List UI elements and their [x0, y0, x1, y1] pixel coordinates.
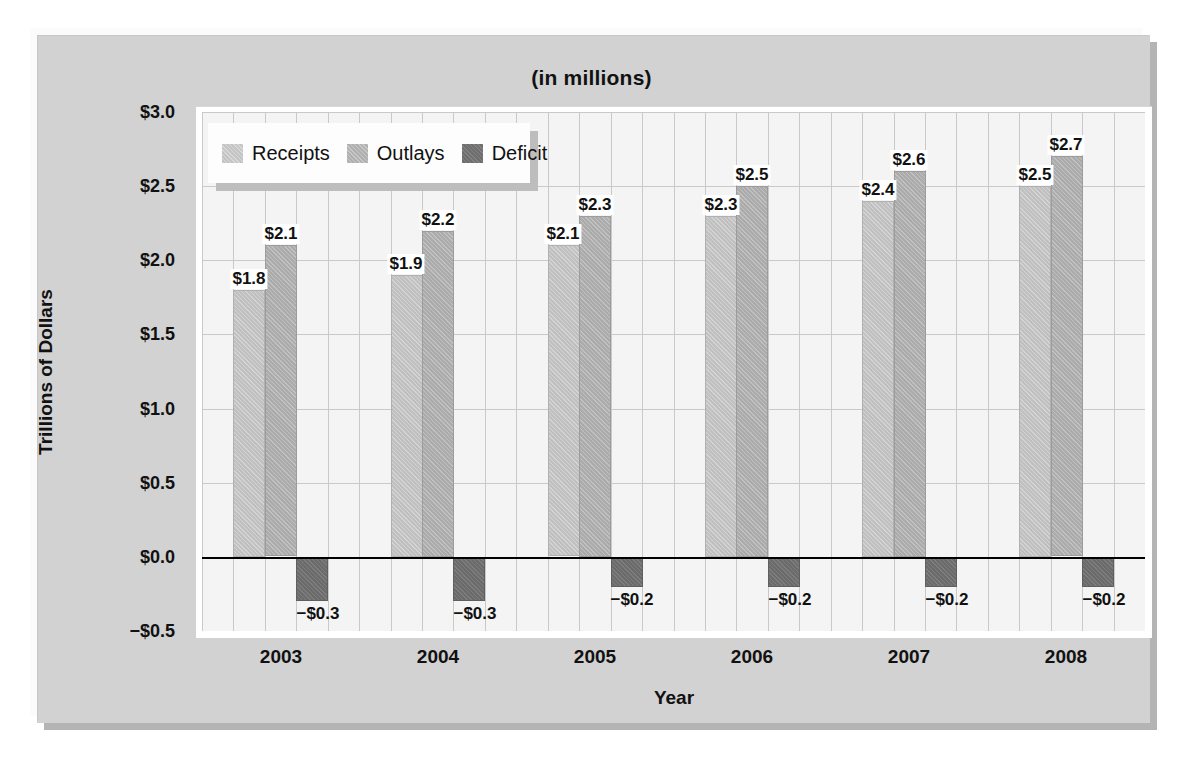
bar-outlays-2006: [736, 186, 768, 557]
y-tick-2-5: $2.5: [65, 176, 175, 196]
y-axis-title: Trillions of Dollars: [35, 262, 57, 482]
vertical-gridline: [799, 112, 800, 631]
y-tick-1: $1.0: [65, 399, 175, 419]
bar-receipts-2006: [705, 216, 737, 557]
x-axis-title: Year: [196, 687, 1152, 709]
legend-swatch-outlays-icon: [347, 144, 368, 163]
chart-legend[interactable]: ReceiptsOutlaysDeficit: [208, 123, 530, 183]
bar-receipts-2004: [391, 275, 423, 557]
legend-swatch-receipts-icon: [222, 144, 243, 163]
x-tick-2008: 2008: [1006, 646, 1126, 668]
data-label-deficit-2008: −$0.2: [1080, 590, 1127, 610]
legend-item-receipts[interactable]: Receipts: [222, 142, 330, 165]
bar-deficit-2008: [1082, 557, 1114, 587]
data-label-outlays-2004: $2.2: [419, 210, 456, 230]
vertical-gridline: [611, 112, 612, 631]
data-label-outlays-2008: $2.7: [1047, 135, 1084, 155]
vertical-gridline: [831, 112, 832, 631]
legend-label-outlays: Outlays: [377, 142, 445, 165]
vertical-gridline: [988, 112, 989, 631]
data-label-deficit-2007: −$0.2: [923, 590, 970, 610]
data-label-receipts-2003: $1.8: [230, 269, 267, 289]
data-label-outlays-2006: $2.5: [733, 165, 770, 185]
vertical-gridline: [768, 112, 769, 631]
data-label-receipts-2005: $2.1: [544, 224, 581, 244]
zero-axis-line: [202, 557, 1145, 559]
bar-receipts-2005: [548, 245, 580, 556]
data-label-deficit-2005: −$0.2: [608, 590, 655, 610]
data-label-receipts-2004: $1.9: [387, 254, 424, 274]
x-tick-2005: 2005: [535, 646, 655, 668]
bar-deficit-2005: [611, 557, 643, 587]
bar-outlays-2007: [894, 171, 926, 557]
vertical-gridline: [956, 112, 957, 631]
x-tick-2006: 2006: [692, 646, 812, 668]
data-label-deficit-2004: −$0.3: [451, 604, 498, 624]
vertical-gridline: [1114, 112, 1115, 631]
vertical-gridline: [642, 112, 643, 631]
bar-outlays-2003: [265, 245, 297, 556]
x-tick-2003: 2003: [221, 646, 341, 668]
bar-outlays-2004: [422, 231, 454, 557]
data-label-receipts-2007: $2.4: [859, 180, 896, 200]
bar-receipts-2007: [862, 201, 894, 557]
legend-item-outlays[interactable]: Outlays: [347, 142, 445, 165]
y-tick-2: $2.0: [65, 250, 175, 270]
data-label-outlays-2003: $2.1: [262, 224, 299, 244]
data-label-deficit-2006: −$0.2: [766, 590, 813, 610]
bar-deficit-2003: [296, 557, 328, 601]
bar-deficit-2004: [453, 557, 485, 601]
y-tick-0: $0.0: [65, 547, 175, 567]
bar-deficit-2006: [768, 557, 800, 587]
legend-label-receipts: Receipts: [252, 142, 330, 165]
data-label-deficit-2003: −$0.3: [294, 604, 341, 624]
y-tick--0-5: −$0.5: [65, 621, 175, 641]
y-tick-1-5: $1.5: [65, 324, 175, 344]
chart-title: (in millions): [0, 66, 1183, 90]
legend-swatch-deficit-icon: [462, 144, 483, 163]
legend-label-deficit: Deficit: [492, 142, 548, 165]
legend-item-deficit[interactable]: Deficit: [462, 142, 548, 165]
vertical-gridline: [674, 112, 675, 631]
bar-deficit-2007: [925, 557, 957, 587]
bar-outlays-2008: [1051, 156, 1083, 556]
data-label-outlays-2005: $2.3: [576, 195, 613, 215]
data-label-receipts-2008: $2.5: [1016, 165, 1053, 185]
bar-receipts-2008: [1019, 186, 1051, 557]
bar-receipts-2003: [233, 290, 265, 557]
data-label-receipts-2006: $2.3: [702, 195, 739, 215]
chart-page: (in millions) Trillions of Dollars $3.0$…: [0, 0, 1183, 762]
y-tick-0-5: $0.5: [65, 473, 175, 493]
y-tick-3: $3.0: [65, 102, 175, 122]
vertical-gridline: [202, 112, 203, 631]
bar-outlays-2005: [579, 216, 611, 557]
x-tick-2007: 2007: [849, 646, 969, 668]
x-tick-2004: 2004: [378, 646, 498, 668]
data-label-outlays-2007: $2.6: [890, 150, 927, 170]
